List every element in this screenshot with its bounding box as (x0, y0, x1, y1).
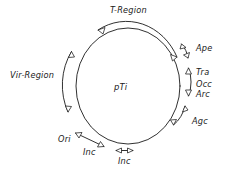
ape-arrow (180, 44, 190, 58)
tra-occ-arc-arrowhead-top (186, 68, 192, 74)
vir-region-arc (62, 52, 71, 113)
vir-region-arrow (62, 52, 74, 113)
inc-lower-arrowhead-right (128, 148, 134, 153)
inc-lower-arrowhead-left (116, 148, 122, 153)
tra-occ-arc-arrowhead-bottom (186, 90, 192, 96)
label-arc: Arc (196, 90, 210, 99)
label-ori: Ori (58, 135, 71, 143)
agc-arrowhead-top (183, 106, 189, 112)
plasmid-circle (76, 28, 180, 144)
label-inc-ori: Inc (83, 148, 96, 156)
label-plasmid-name: pTi (114, 83, 127, 91)
label-agc: Agc (192, 117, 208, 125)
vir-region-arrowhead-bottom (66, 106, 72, 112)
tra-occ-arc-arrow (186, 68, 192, 96)
t-region-arrowhead-left (98, 28, 105, 35)
t-region-arc (98, 21, 177, 57)
inc-lower-arrow (116, 148, 133, 153)
plasmid-diagram: T-Region Ape Tra Occ Arc Agc Inc Inc Ori… (0, 0, 236, 181)
label-inc-lower: Inc (118, 157, 131, 165)
label-ape: Ape (196, 44, 212, 52)
label-vir-region: Vir-Region (10, 71, 54, 79)
agc-arrowhead-bottom (171, 120, 177, 126)
label-tra: Tra (196, 68, 209, 77)
label-t-region: T-Region (110, 6, 147, 14)
t-region-arrow (98, 21, 177, 61)
label-occ: Occ (196, 80, 212, 89)
